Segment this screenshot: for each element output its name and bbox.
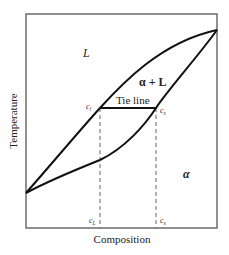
region-label-liquid: L [82,46,90,60]
tie-right-label: cs [160,106,166,116]
x-axis-label: Composition [94,233,151,245]
region-label-two-phase: α + L [139,75,167,89]
bottom-cs-label: cs [160,216,166,226]
tie-left-label: cl [86,102,92,112]
bottom-cl-label: cL [89,216,96,226]
plot-frame [26,14,217,228]
phase-diagram: L α + L α Tie line cl cs cL cs Compositi… [0,0,229,255]
tie-line-label: Tie line [116,94,150,106]
y-axis-label: Temperature [7,93,19,149]
region-label-solid: α [183,167,190,181]
